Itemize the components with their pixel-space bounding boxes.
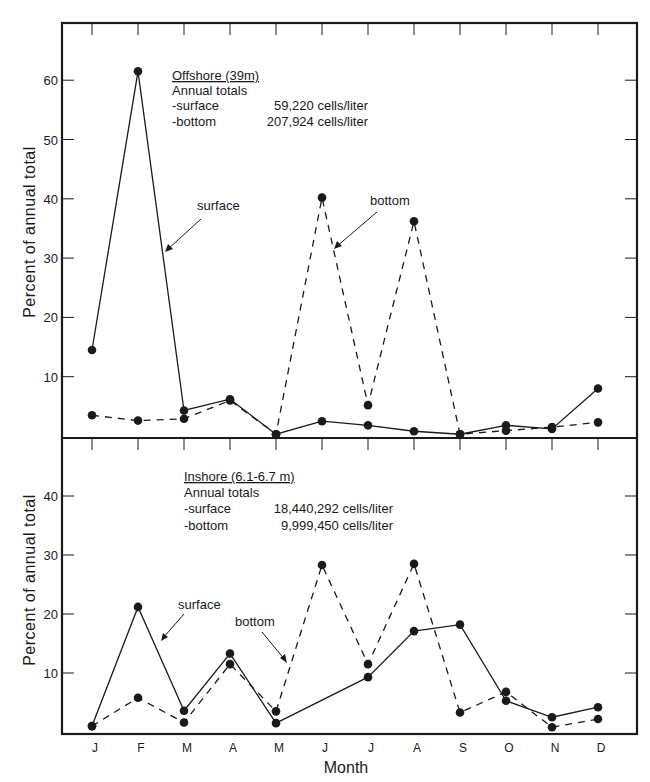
chart-canvas: 102030405060 Offshore (39m) Annual total… bbox=[0, 0, 650, 782]
offshore-surface-marker bbox=[318, 417, 327, 426]
inshore-surface-marker bbox=[410, 627, 419, 636]
offshore-surface-annotation: surface bbox=[165, 198, 240, 252]
offshore-surface-annotation-label: surface bbox=[197, 198, 240, 213]
inshore-bottom-marker bbox=[410, 560, 419, 569]
month-label: N bbox=[551, 741, 560, 755]
inshore-bottom-marker bbox=[272, 707, 281, 716]
offshore-axis-ticks: 102030405060 bbox=[44, 23, 637, 385]
inshore-surface-label: -surface bbox=[184, 501, 231, 516]
inshore-bottom-marker bbox=[134, 693, 143, 702]
offshore-y-axis-label: Percent of annual total bbox=[21, 146, 38, 318]
offshore-bottom-marker bbox=[180, 415, 189, 424]
month-label: J bbox=[368, 741, 374, 755]
inshore-y-tick-label: 10 bbox=[44, 666, 58, 681]
offshore-y-tick-label: 20 bbox=[44, 310, 58, 325]
offshore-bottom-marker bbox=[364, 401, 373, 410]
offshore-y-tick-label: 10 bbox=[44, 370, 58, 385]
inshore-bottom-annotation-label: bottom bbox=[235, 614, 275, 629]
inshore-surface-annotation: surface bbox=[161, 597, 221, 641]
inshore-bottom-value: 9,999,450 cells/liter bbox=[281, 518, 394, 533]
offshore-surface-arrow bbox=[167, 219, 201, 250]
offshore-y-tick-label: 50 bbox=[44, 133, 58, 148]
offshore-bottom-marker bbox=[318, 193, 327, 202]
month-label: J bbox=[92, 741, 98, 755]
inshore-bottom-marker bbox=[180, 718, 189, 727]
month-label: M bbox=[182, 741, 192, 755]
offshore-y-tick-label: 30 bbox=[44, 251, 58, 266]
inshore-surface-marker bbox=[226, 649, 235, 658]
offshore-annual-totals: Offshore (39m) Annual totals -surface 59… bbox=[172, 68, 369, 129]
month-label: J bbox=[322, 741, 328, 755]
offshore-bottom-value: 207,924 cells/liter bbox=[267, 114, 369, 129]
inshore-surface-marker bbox=[594, 703, 603, 712]
inshore-surface-annotation-label: surface bbox=[178, 597, 221, 612]
offshore-surface-marker bbox=[134, 67, 143, 76]
month-label: D bbox=[597, 741, 606, 755]
inshore-y-tick-label: 20 bbox=[44, 607, 58, 622]
offshore-bottom-line bbox=[92, 198, 598, 435]
plot-frame bbox=[62, 23, 637, 734]
offshore-bottom-marker bbox=[502, 426, 511, 435]
offshore-surface-label: -surface bbox=[172, 98, 219, 113]
inshore-totals-heading: Annual totals bbox=[184, 485, 260, 500]
offshore-bottom-arrowhead-icon bbox=[334, 241, 342, 249]
inshore-bottom-marker bbox=[502, 688, 511, 697]
month-label: A bbox=[413, 741, 421, 755]
month-label: A bbox=[229, 741, 237, 755]
offshore-bottom-arrow bbox=[336, 212, 377, 247]
inshore-surface-marker bbox=[502, 696, 511, 705]
chart-figure: 102030405060 Offshore (39m) Annual total… bbox=[0, 0, 650, 782]
offshore-bottom-label: -bottom bbox=[172, 114, 216, 129]
offshore-surface-marker bbox=[410, 427, 419, 436]
inshore-y-tick-label: 40 bbox=[44, 489, 58, 504]
month-label: S bbox=[459, 741, 467, 755]
inshore-bottom-line bbox=[92, 564, 598, 727]
inshore-bottom-marker bbox=[88, 722, 97, 731]
offshore-bottom-marker bbox=[272, 430, 281, 439]
offshore-bottom-annotation-label: bottom bbox=[370, 193, 410, 208]
inshore-surface-value: 18,440,292 cells/liter bbox=[274, 501, 394, 516]
inshore-bottom-marker bbox=[548, 723, 557, 732]
inshore-bottom-marker bbox=[364, 660, 373, 669]
offshore-bottom-marker bbox=[88, 411, 97, 420]
offshore-y-tick-label: 60 bbox=[44, 73, 58, 88]
offshore-title: Offshore (39m) bbox=[172, 68, 259, 83]
offshore-surface-marker bbox=[364, 421, 373, 430]
offshore-bottom-marker bbox=[456, 430, 465, 439]
offshore-bottom-marker bbox=[134, 416, 143, 425]
offshore-bottom-marker bbox=[410, 217, 419, 226]
offshore-y-tick-label: 40 bbox=[44, 192, 58, 207]
inshore-axis-ticks: 10203040 bbox=[44, 438, 637, 681]
inshore-bottom-marker bbox=[226, 660, 235, 669]
inshore-panel: 10203040 Inshore (6.1-6.7 m) Annual tota… bbox=[44, 438, 637, 732]
inshore-bottom-label: -bottom bbox=[184, 518, 228, 533]
offshore-surface-marker bbox=[180, 406, 189, 415]
inshore-surface-marker bbox=[548, 713, 557, 722]
inshore-surface-arrow bbox=[163, 614, 184, 638]
offshore-bottom-annotation: bottom bbox=[334, 193, 410, 249]
offshore-surface-marker bbox=[88, 346, 97, 355]
month-tick-labels: JFMAMJJASOND bbox=[92, 741, 606, 755]
inshore-surface-marker bbox=[272, 719, 281, 728]
month-label: O bbox=[504, 741, 513, 755]
inshore-y-tick-label: 30 bbox=[44, 548, 58, 563]
offshore-bottom-marker bbox=[548, 423, 557, 432]
month-label: F bbox=[137, 741, 144, 755]
inshore-y-axis-label: Percent of annual total bbox=[21, 494, 38, 666]
inshore-annual-totals: Inshore (6.1-6.7 m) Annual totals -surfa… bbox=[184, 469, 394, 533]
inshore-surface-marker bbox=[364, 673, 373, 682]
outer-frame bbox=[62, 23, 637, 734]
x-axis-label: Month bbox=[324, 759, 368, 776]
inshore-bottom-marker bbox=[318, 561, 327, 570]
inshore-surface-line bbox=[92, 607, 598, 726]
offshore-surface-value: 59,220 cells/liter bbox=[274, 98, 369, 113]
inshore-series bbox=[88, 560, 603, 732]
inshore-surface-marker bbox=[456, 620, 465, 629]
inshore-bottom-marker bbox=[594, 715, 603, 724]
inshore-bottom-annotation: bottom bbox=[235, 614, 287, 663]
inshore-surface-marker bbox=[180, 706, 189, 715]
inshore-surface-marker bbox=[134, 603, 143, 612]
offshore-bottom-marker bbox=[594, 418, 603, 427]
inshore-bottom-arrow bbox=[262, 632, 285, 660]
offshore-bottom-marker bbox=[226, 396, 235, 405]
